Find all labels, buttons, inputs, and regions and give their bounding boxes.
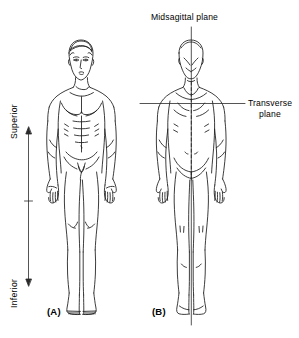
transverse-plane-label: Transverse plane xyxy=(243,98,297,120)
superior-direction-label: Superior xyxy=(9,104,19,139)
arrowhead-up xyxy=(26,127,31,134)
figure-anterior-body xyxy=(47,40,117,315)
arrowhead-down xyxy=(26,279,31,286)
panel-a-label: (A) xyxy=(47,306,61,317)
superior-inferior-axis xyxy=(25,127,33,286)
inferior-direction-label: Inferior xyxy=(9,279,19,308)
anatomical-planes-figure: Midsagittal plane Transverse plane Super… xyxy=(0,0,299,338)
midsagittal-plane-label: Midsagittal plane xyxy=(151,12,218,23)
anatomy-illustration xyxy=(0,0,299,338)
panel-b-label: (B) xyxy=(152,306,166,317)
plane-lines xyxy=(140,27,245,325)
